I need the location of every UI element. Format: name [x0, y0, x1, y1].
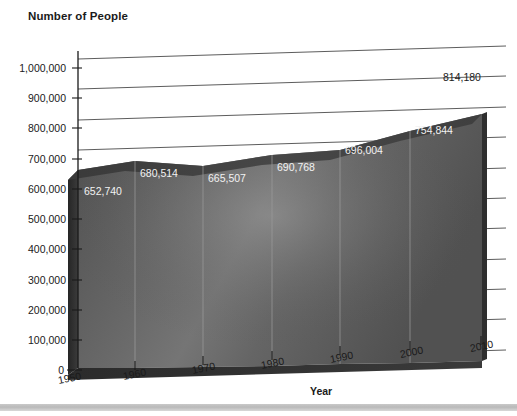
- y-tick-label-900000: 900,000: [0, 92, 66, 104]
- area-series-3d: [68, 112, 487, 380]
- data-label-1980: 690,768: [277, 161, 315, 173]
- area-front-glow: [78, 114, 482, 368]
- y-tick-label-800000: 800,000: [0, 122, 66, 134]
- data-label-1960: 680,514: [140, 167, 178, 179]
- y-tick-label-400000: 400,000: [0, 243, 66, 255]
- area-right-face: [482, 112, 487, 361]
- y-tick-label-500000: 500,000: [0, 213, 66, 225]
- data-label-2000: 754,844: [415, 124, 453, 136]
- data-label-1950: 652,740: [84, 185, 122, 197]
- bottom-divider: [0, 404, 517, 411]
- data-label-1990: 696,004: [345, 144, 383, 156]
- chart-container: Number of People: [0, 0, 517, 416]
- y-tick-label-600000: 600,000: [0, 183, 66, 195]
- y-tick-label-100000: 100,000: [0, 334, 66, 346]
- y-tick-label-200000: 200,000: [0, 304, 66, 316]
- x-axis-title: Year: [310, 385, 332, 397]
- area-left-face: [68, 170, 78, 375]
- data-label-1970: 665,507: [208, 172, 246, 184]
- y-tick-label-700000: 700,000: [0, 153, 66, 165]
- y-tick-label-0: 0: [0, 364, 64, 376]
- data-label-2010: 814,180: [443, 71, 481, 83]
- y-tick-label-300000: 300,000: [0, 274, 66, 286]
- chart-plot-area: [0, 0, 517, 416]
- y-tick-label-1000000: 1,000,000: [0, 62, 66, 74]
